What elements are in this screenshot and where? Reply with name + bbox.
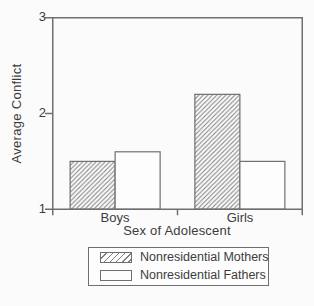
plot-svg [52, 17, 303, 210]
legend-label-mothers: Nonresidential Mothers [140, 251, 269, 264]
plot-area [52, 17, 303, 210]
legend-item-mothers: Nonresidential Mothers [100, 251, 268, 264]
bar-boys-fathers [115, 152, 160, 209]
bar-girls-mothers [195, 94, 240, 209]
open-swatch-icon [100, 270, 132, 281]
hatched-swatch-icon [100, 252, 132, 263]
bar-chart-figure: Average Conflict 3 2 1 Boys Girls Sex of… [0, 0, 314, 306]
y-tick-label-1: 1 [18, 201, 46, 217]
legend-box: Nonresidential Mothers Nonresidential Fa… [88, 247, 269, 286]
x-axis-title: Sex of Adolescent [77, 224, 277, 238]
bar-boys-mothers [70, 161, 115, 209]
y-tick-label-3: 3 [18, 9, 46, 25]
legend-item-fathers: Nonresidential Fathers [100, 269, 268, 282]
legend-label-fathers: Nonresidential Fathers [140, 269, 266, 282]
bar-girls-fathers [240, 161, 285, 209]
y-tick-label-2: 2 [18, 105, 46, 121]
